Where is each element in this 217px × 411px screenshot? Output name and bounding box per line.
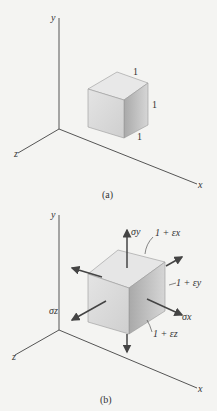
sigma-z-label: σz: [49, 306, 58, 316]
strain-label-z: 1 + εz: [153, 329, 178, 339]
edge-label-bottom: 1: [137, 132, 142, 142]
x-axis-label-b: x: [198, 384, 202, 394]
edge-label-side: 1: [152, 100, 157, 110]
strain-label-y: 1 + εy: [176, 278, 201, 288]
x-axis-label-a: x: [198, 180, 202, 190]
edge-label-top: 1: [133, 67, 138, 77]
z-axis-label-b: z: [12, 352, 16, 362]
sigma-z-neg-arrow: [166, 257, 182, 266]
caption-b: (b): [100, 395, 112, 405]
y-axis-label-b: y: [51, 210, 55, 220]
y-axis-label-a: y: [51, 13, 55, 23]
strain-label-x: 1 + εx: [155, 228, 180, 238]
strain-diagram: [0, 0, 217, 411]
caption-a: (a): [102, 190, 113, 200]
unit-cube-a: [88, 72, 148, 138]
sigma-y-label: σy: [131, 227, 140, 237]
z-axis-label-a: z: [14, 149, 18, 159]
sigma-x-label: σx: [182, 312, 191, 322]
